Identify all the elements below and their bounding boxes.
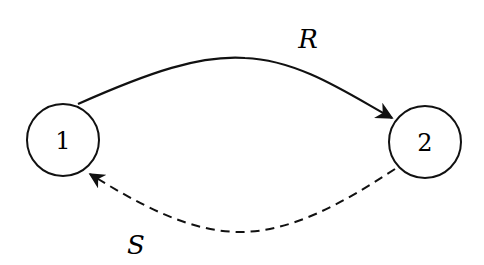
node-1: 1 [27,104,99,176]
node-1-label: 1 [55,127,70,155]
edge-s-label: S [127,230,145,260]
node-2: 2 [389,106,461,178]
edge-r-arrow [78,58,392,118]
edge-r-label: R [297,24,318,54]
state-diagram: 1 2 R S [0,0,484,265]
edge-s-arrow [90,169,395,232]
node-2-label: 2 [417,129,432,157]
